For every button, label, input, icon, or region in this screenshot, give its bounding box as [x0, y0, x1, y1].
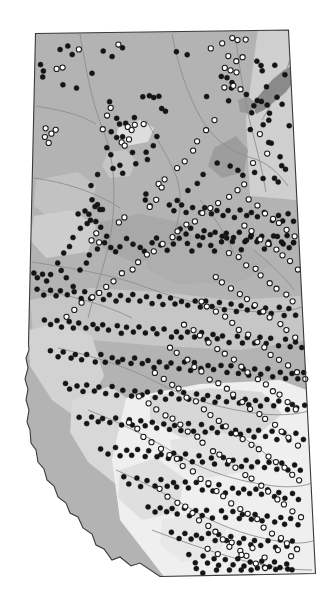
occurrence-point-filled: [237, 516, 242, 521]
occurrence-point-filled: [296, 497, 301, 502]
occurrence-point-filled: [173, 301, 178, 306]
occurrence-point-open: [208, 206, 213, 211]
occurrence-point-open: [226, 251, 231, 256]
occurrence-point-filled: [96, 385, 101, 390]
occurrence-point-filled: [288, 516, 293, 521]
occurrence-point-filled: [265, 366, 270, 371]
occurrence-point-filled: [138, 418, 143, 423]
occurrence-point-filled: [65, 292, 70, 297]
occurrence-point-filled: [211, 367, 216, 372]
occurrence-point-open: [257, 412, 262, 417]
occurrence-point-filled: [223, 557, 228, 562]
occurrence-point-filled: [202, 205, 207, 210]
occurrence-point-filled: [279, 239, 284, 244]
occurrence-point-open: [206, 523, 211, 528]
occurrence-point-filled: [203, 430, 208, 435]
occurrence-point-filled: [197, 243, 202, 248]
occurrence-point-open: [290, 472, 295, 477]
occurrence-point-open: [212, 118, 217, 123]
occurrence-point-filled: [181, 390, 186, 395]
occurrence-point-open: [167, 452, 172, 457]
occurrence-point-filled: [103, 360, 108, 365]
occurrence-point-open: [255, 339, 260, 344]
occurrence-point-open: [199, 299, 204, 304]
occurrence-point-filled: [154, 331, 159, 336]
occurrence-point-open: [208, 46, 213, 51]
occurrence-point-open: [222, 65, 227, 70]
occurrence-point-filled: [245, 307, 250, 312]
occurrence-point-open: [267, 281, 272, 286]
occurrence-point-filled: [280, 102, 285, 107]
occurrence-point-open: [196, 518, 201, 523]
occurrence-point-filled: [159, 452, 164, 457]
occurrence-point-filled: [174, 484, 179, 489]
occurrence-point-filled: [101, 49, 106, 54]
occurrence-point-filled: [107, 420, 112, 425]
occurrence-point-filled: [185, 188, 190, 193]
occurrence-point-filled: [282, 496, 287, 501]
occurrence-point-open: [266, 489, 271, 494]
occurrence-point-filled: [205, 561, 210, 566]
occurrence-point-filled: [204, 508, 209, 513]
occurrence-point-open: [240, 437, 245, 442]
occurrence-point-open: [231, 392, 236, 397]
occurrence-point-filled: [119, 422, 124, 427]
occurrence-point-filled: [31, 271, 36, 276]
occurrence-point-open: [126, 420, 131, 425]
occurrence-point-filled: [84, 421, 89, 426]
occurrence-point-filled: [222, 307, 227, 312]
occurrence-point-filled: [235, 334, 240, 339]
occurrence-point-filled: [75, 383, 80, 388]
occurrence-point-open: [243, 472, 248, 477]
occurrence-point-filled: [210, 516, 215, 521]
occurrence-point-filled: [239, 464, 244, 469]
occurrence-point-open: [269, 531, 274, 536]
occurrence-point-filled: [182, 531, 187, 536]
occurrence-point-open: [262, 555, 267, 560]
occurrence-point-open: [141, 434, 146, 439]
occurrence-point-open: [175, 166, 180, 171]
occurrence-point-filled: [154, 134, 159, 139]
occurrence-point-filled: [252, 435, 257, 440]
occurrence-point-filled: [102, 240, 107, 245]
occurrence-point-filled: [145, 478, 150, 483]
occurrence-point-filled: [219, 508, 224, 513]
occurrence-point-open: [295, 267, 300, 272]
occurrence-point-open: [178, 422, 183, 427]
occurrence-point-open: [144, 252, 149, 257]
occurrence-point-open: [244, 553, 249, 558]
occurrence-point-filled: [110, 54, 115, 59]
occurrence-point-filled: [164, 509, 169, 514]
occurrence-point-filled: [185, 241, 190, 246]
occurrence-point-open: [185, 357, 190, 362]
occurrence-point-filled: [48, 348, 53, 353]
occurrence-point-filled: [212, 556, 217, 561]
occurrence-point-filled: [183, 451, 188, 456]
occurrence-point-filled: [219, 239, 224, 244]
occurrence-point-filled: [266, 118, 271, 123]
occurrence-point-filled: [157, 359, 162, 364]
occurrence-point-open: [227, 194, 232, 199]
occurrence-point-filled: [186, 552, 191, 557]
occurrence-point-open: [286, 435, 291, 440]
occurrence-point-open: [230, 35, 235, 40]
occurrence-point-filled: [59, 325, 64, 330]
occurrence-point-filled: [78, 226, 83, 231]
occurrence-point-filled: [260, 518, 265, 523]
occurrence-point-open: [250, 546, 255, 551]
occurrence-point-filled: [186, 485, 191, 490]
occurrence-point-filled: [150, 420, 155, 425]
occurrence-point-filled: [129, 394, 134, 399]
occurrence-point-open: [228, 68, 233, 73]
occurrence-point-filled: [60, 82, 65, 87]
occurrence-point-filled: [117, 122, 122, 127]
occurrence-point-filled: [138, 245, 143, 250]
occurrence-point-filled: [61, 251, 66, 256]
occurrence-point-filled: [117, 163, 122, 168]
occurrence-point-filled: [277, 305, 282, 310]
occurrence-point-filled: [264, 397, 269, 402]
occurrence-point-open: [292, 234, 297, 239]
occurrence-point-open: [215, 552, 220, 557]
occurrence-point-open: [245, 511, 250, 516]
occurrence-point-filled: [40, 272, 45, 277]
